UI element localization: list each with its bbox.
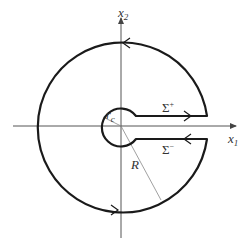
sigma-plus-base: Σ [162, 100, 170, 115]
sigma-plus-label: Σ+ [162, 101, 174, 114]
sigma-minus-base: Σ [162, 142, 170, 157]
sigma-minus-label: Σ− [162, 143, 174, 156]
x1-sub: 1 [234, 138, 239, 148]
outer-radius-line [121, 126, 161, 200]
keyhole-contour [38, 43, 207, 213]
inner-radius-label: rc [106, 109, 115, 124]
x2-axis-label: x2 [118, 6, 128, 22]
sigma-plus-sup: + [170, 100, 175, 109]
contour-canvas [0, 0, 248, 250]
rc-sub: c [111, 114, 115, 124]
arrow-bottom [111, 205, 118, 215]
x1-axis-label: x1 [228, 132, 238, 148]
outer-radius-label: R [131, 158, 139, 171]
x2-sub: 2 [124, 12, 129, 22]
keyhole-contour-diagram: x2 x1 Σ+ Σ− R rc [0, 0, 248, 250]
sigma-minus-sup: − [170, 142, 175, 151]
